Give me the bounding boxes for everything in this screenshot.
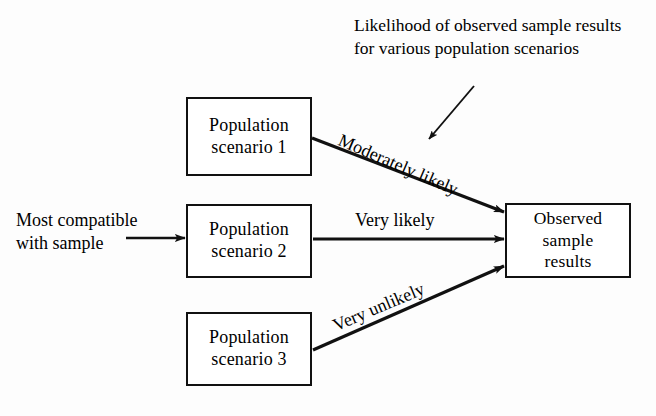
node-label-line: results	[544, 251, 591, 272]
callout-line: with sample	[16, 232, 137, 255]
annotation-pointer-arrow	[429, 86, 474, 139]
node-label-line: Observed	[534, 208, 603, 229]
node-label-line: sample	[543, 230, 594, 251]
node-label-line: Population	[209, 219, 289, 241]
node-label-line: scenario 2	[211, 241, 286, 263]
node-label-line: scenario 3	[211, 349, 286, 371]
node-population-scenario-2: Population scenario 2	[186, 204, 312, 278]
edge-label-moderately-likely: Moderately likely	[335, 130, 461, 200]
callout-most-compatible-with-sample: Most compatible with sample	[16, 209, 137, 255]
edge-scenario-3-to-observed	[313, 266, 504, 350]
node-label-line: Population	[209, 115, 289, 137]
edge-label-very-likely: Very likely	[355, 210, 434, 231]
node-population-scenario-1: Population scenario 1	[186, 97, 312, 176]
edge-label-very-unlikely: Very unlikely	[330, 279, 428, 336]
node-observed-sample-results: Observed sample results	[505, 203, 631, 278]
node-label-line: scenario 1	[211, 137, 286, 159]
diagram-canvas: Population scenario 1 Population scenari…	[0, 0, 656, 416]
node-label-line: Population	[209, 327, 289, 349]
node-population-scenario-3: Population scenario 3	[186, 312, 312, 386]
annotation-likelihood-note: Likelihood of observed sample results fo…	[354, 14, 634, 61]
callout-line: Most compatible	[16, 209, 137, 232]
